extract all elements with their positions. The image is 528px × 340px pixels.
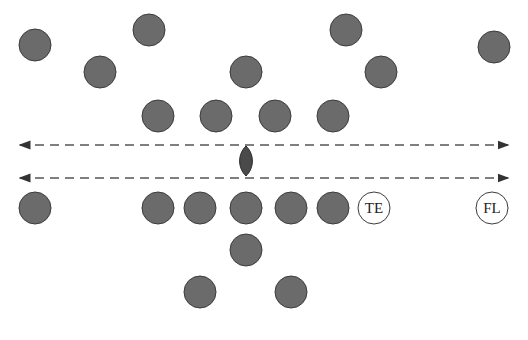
defense-player-3 bbox=[84, 56, 117, 89]
player-te: TE bbox=[358, 192, 391, 225]
player-label: TE bbox=[365, 200, 383, 217]
defense-player-7 bbox=[478, 31, 511, 64]
formation-diagram: TEFL bbox=[0, 0, 528, 340]
defense-player-9 bbox=[200, 100, 233, 133]
defense-player-4 bbox=[230, 56, 263, 89]
defense-player-6 bbox=[365, 56, 398, 89]
defense-player-1 bbox=[19, 29, 52, 62]
scrimmage-lines bbox=[0, 0, 528, 340]
defense-player-11 bbox=[317, 100, 350, 133]
offense-player-1 bbox=[19, 192, 52, 225]
defense-player-8 bbox=[142, 100, 175, 133]
offense-player-2 bbox=[142, 192, 175, 225]
offense-player-4 bbox=[230, 192, 263, 225]
offense-player-3 bbox=[184, 192, 217, 225]
offense-player-5 bbox=[275, 192, 308, 225]
offense-player-11 bbox=[275, 276, 308, 309]
offense-player-9 bbox=[230, 234, 263, 267]
football-icon bbox=[238, 145, 255, 177]
defense-player-5 bbox=[330, 14, 363, 47]
offense-player-10 bbox=[184, 276, 217, 309]
player-label: FL bbox=[483, 200, 501, 217]
player-fl: FL bbox=[476, 192, 509, 225]
defense-player-10 bbox=[259, 100, 292, 133]
offense-player-6 bbox=[317, 192, 350, 225]
defense-player-2 bbox=[133, 14, 166, 47]
